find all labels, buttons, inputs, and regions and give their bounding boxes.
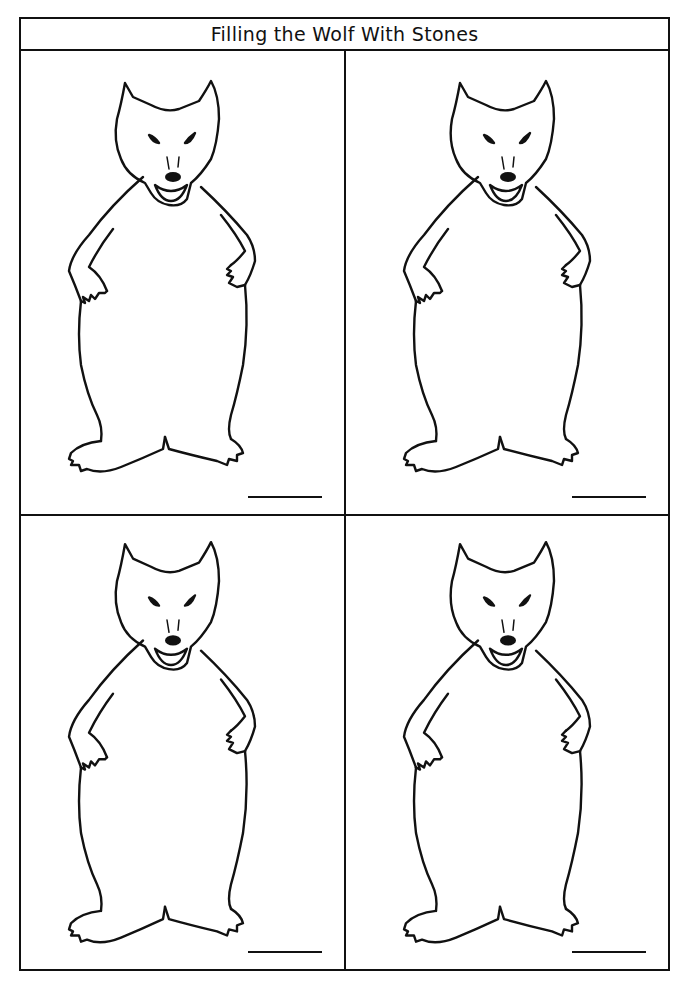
title-band: Filling the Wolf With Stones [21,19,668,51]
wolf-outline-icon [376,75,606,485]
answer-blank[interactable] [572,496,646,498]
panel-2 [346,51,668,516]
wolf-outline-icon [376,536,606,956]
answer-blank[interactable] [248,496,322,498]
panel-1 [21,51,346,516]
panel-4 [346,516,668,969]
panel-grid [21,51,668,969]
wolf-outline-icon [41,75,271,485]
worksheet-frame: Filling the Wolf With Stones [19,17,670,971]
answer-blank[interactable] [572,951,646,953]
wolf-outline-icon [41,536,271,956]
answer-blank[interactable] [248,951,322,953]
page-title: Filling the Wolf With Stones [211,23,479,45]
panel-3 [21,516,346,969]
